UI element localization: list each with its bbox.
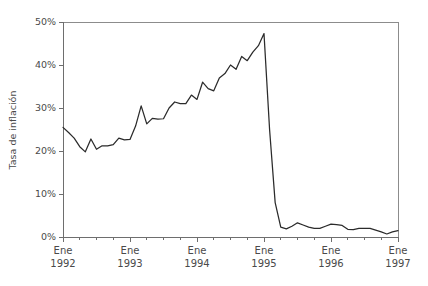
x-tick-label-month: Ene <box>54 245 73 256</box>
y-tick-label: 40% <box>35 59 56 70</box>
inflation-series-line <box>63 34 398 234</box>
y-tick-label: 20% <box>35 145 56 156</box>
x-tick-label-month: Ene <box>121 245 140 256</box>
y-axis-ticks <box>59 22 63 237</box>
inflation-chart: 0%10%20%30%40%50% Ene1992Ene1993Ene1994E… <box>0 0 428 286</box>
y-tick-label: 50% <box>35 16 56 27</box>
x-tick-label-year: 1996 <box>318 258 343 269</box>
x-axis-tick-labels: Ene1992Ene1993Ene1994Ene1995Ene1996Ene19… <box>50 245 410 269</box>
x-tick-label-month: Ene <box>322 245 341 256</box>
x-tick-label-month: Ene <box>389 245 408 256</box>
plot-frame <box>63 22 398 237</box>
x-tick-label-month: Ene <box>255 245 274 256</box>
y-axis-tick-labels: 0%10%20%30%40%50% <box>35 16 56 242</box>
x-tick-label-year: 1992 <box>50 258 75 269</box>
x-axis-ticks <box>63 237 398 242</box>
x-tick-label-year: 1995 <box>251 258 276 269</box>
x-tick-label-year: 1994 <box>184 258 209 269</box>
x-tick-label-year: 1997 <box>385 258 410 269</box>
chart-canvas: 0%10%20%30%40%50% Ene1992Ene1993Ene1994E… <box>0 0 428 286</box>
x-tick-label-year: 1993 <box>117 258 142 269</box>
y-tick-label: 10% <box>35 188 56 199</box>
y-axis-title: Tasa de inflación <box>7 91 18 171</box>
y-tick-label: 30% <box>35 102 56 113</box>
x-tick-label-month: Ene <box>188 245 207 256</box>
y-tick-label: 0% <box>41 231 56 242</box>
